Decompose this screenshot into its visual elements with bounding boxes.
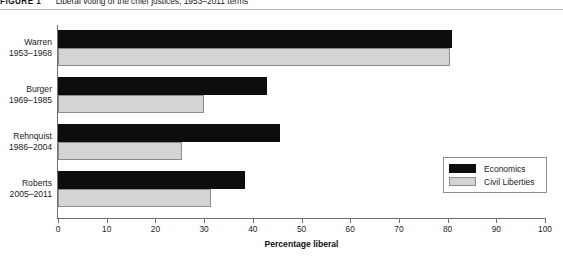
x-tick-label: 50 — [297, 224, 306, 234]
legend-label-civil-liberties: Civil Liberties — [484, 177, 535, 187]
x-tick-mark — [448, 219, 449, 223]
x-tick-label: 100 — [538, 224, 552, 234]
legend-swatch-civil-liberties — [449, 177, 476, 186]
category-label-name: Warren — [0, 37, 52, 48]
x-tick-mark — [253, 219, 254, 223]
category-label-years: 1953–1968 — [0, 48, 52, 59]
x-tick-label: 20 — [151, 224, 160, 234]
category-label-name: Roberts — [0, 178, 52, 189]
figure-caption-text: Liberal voting of the chief justices, 19… — [56, 0, 249, 6]
x-tick-label: 60 — [346, 224, 355, 234]
bar-civil-liberties — [58, 48, 450, 66]
x-tick-label: 40 — [248, 224, 257, 234]
figure-caption: FIGURE 1 Liberal voting of the chief jus… — [0, 0, 248, 6]
category-label-rehnquist: Rehnquist1986–2004 — [0, 131, 52, 153]
bar-chart: 0102030405060708090100 Warren1953–1968Bu… — [0, 11, 563, 256]
x-tick-mark — [496, 219, 497, 223]
caption-divider — [0, 9, 563, 10]
bar-civil-liberties — [58, 142, 182, 160]
x-tick-label: 10 — [102, 224, 111, 234]
x-tick-mark — [399, 219, 400, 223]
bar-economics — [58, 171, 245, 189]
category-label-name: Rehnquist — [0, 131, 52, 142]
category-label-burger: Burger1969–1985 — [0, 84, 52, 106]
bar-civil-liberties — [58, 189, 211, 207]
legend-label-economics: Economics — [484, 164, 526, 174]
category-label-name: Burger — [0, 84, 52, 95]
x-tick-label: 30 — [199, 224, 208, 234]
x-tick-label: 70 — [394, 224, 403, 234]
x-tick-mark — [58, 219, 59, 223]
figure-caption-label: FIGURE 1 — [0, 0, 41, 6]
category-label-warren: Warren1953–1968 — [0, 37, 52, 59]
bar-economics — [58, 124, 280, 142]
legend-item-economics: Economics — [449, 162, 541, 175]
x-tick-mark — [107, 219, 108, 223]
legend-item-civil-liberties: Civil Liberties — [449, 175, 541, 188]
category-label-years: 1969–1985 — [0, 95, 52, 106]
figure-caption-header: FIGURE 1 Liberal voting of the chief jus… — [0, 0, 563, 11]
x-tick-label: 90 — [492, 224, 501, 234]
category-label-roberts: Roberts2005–2011 — [0, 178, 52, 200]
x-tick-label: 0 — [56, 224, 61, 234]
x-tick-mark — [204, 219, 205, 223]
bar-civil-liberties — [58, 95, 204, 113]
category-label-years: 1986–2004 — [0, 142, 52, 153]
x-tick-mark — [302, 219, 303, 223]
x-tick-mark — [155, 219, 156, 223]
legend-swatch-economics — [449, 164, 476, 173]
category-label-years: 2005–2011 — [0, 189, 52, 200]
bar-economics — [58, 30, 452, 48]
x-axis-title: Percentage liberal — [58, 239, 545, 249]
x-tick-label: 80 — [443, 224, 452, 234]
chart-legend: Economics Civil Liberties — [443, 157, 547, 193]
x-tick-mark — [545, 219, 546, 223]
x-tick-mark — [350, 219, 351, 223]
bar-economics — [58, 77, 267, 95]
